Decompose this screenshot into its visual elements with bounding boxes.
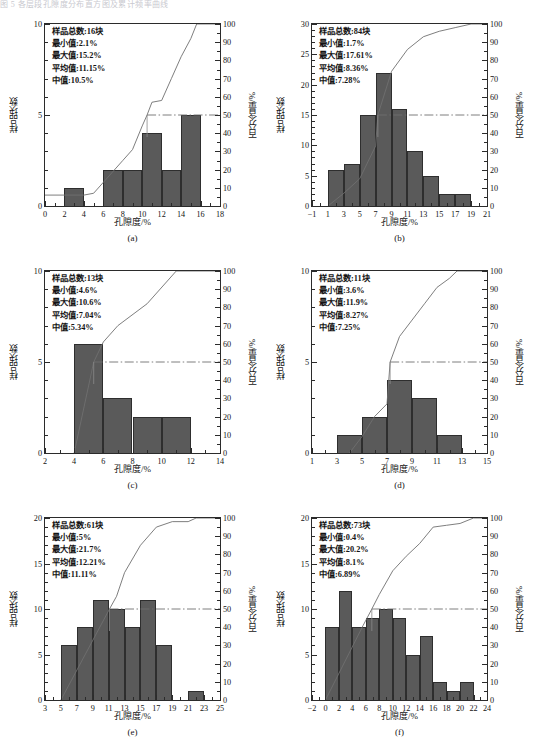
y-minor-tick bbox=[45, 206, 48, 207]
x-minor-tick bbox=[386, 697, 387, 700]
y-minor-tick bbox=[312, 36, 315, 37]
right-minor-tick bbox=[217, 280, 220, 281]
x-tick bbox=[439, 201, 440, 206]
y-minor-tick bbox=[312, 151, 315, 152]
x-minor-tick bbox=[450, 450, 451, 453]
right-minor-tick bbox=[217, 24, 220, 25]
x-minor-tick bbox=[350, 450, 351, 453]
chart-panel-a: 0246810121416180510010203040506070809010… bbox=[0, 9, 267, 256]
x-tick bbox=[162, 201, 163, 206]
right-minor-tick bbox=[217, 554, 220, 555]
x-tick bbox=[328, 201, 329, 206]
right-minor-tick bbox=[217, 435, 220, 436]
right-minor-tick bbox=[484, 206, 487, 207]
y-minor-tick bbox=[45, 582, 48, 583]
y-tick-label: 10 bbox=[301, 141, 309, 150]
stats-annotation: 样品总数:84块最小值:1.7%最大值:17.61%平均值:8.36%中值:7.… bbox=[319, 26, 373, 87]
y-tick-label: 0 bbox=[305, 449, 309, 458]
right-axis-title: 百分含量/% bbox=[245, 270, 257, 454]
right-tick-label: 0 bbox=[223, 449, 227, 458]
x-tick bbox=[387, 448, 388, 453]
x-tick bbox=[325, 695, 326, 700]
x-tick bbox=[61, 695, 62, 700]
right-minor-tick bbox=[217, 97, 220, 98]
y-minor-tick bbox=[312, 115, 315, 116]
y-minor-tick bbox=[312, 42, 315, 43]
y-axis-title-text: 样品块数 bbox=[6, 344, 19, 380]
right-tick-label: 40 bbox=[490, 623, 498, 632]
right-minor-tick bbox=[484, 88, 487, 89]
y-tick-label: 10 bbox=[301, 605, 309, 614]
right-minor-tick bbox=[484, 453, 487, 454]
chart-panel-e: 3579111315171921232505101520010203040506… bbox=[0, 503, 267, 750]
right-minor-tick bbox=[217, 206, 220, 207]
right-axis-title: 百分含量/% bbox=[245, 517, 257, 701]
y-minor-tick bbox=[312, 73, 315, 74]
x-minor-tick bbox=[53, 697, 54, 700]
y-minor-tick bbox=[312, 60, 315, 61]
right-minor-tick bbox=[484, 700, 487, 701]
y-minor-tick bbox=[312, 103, 315, 104]
y-axis-title: 样品块数 bbox=[273, 517, 285, 701]
x-axis-title: 孔隙度/% bbox=[311, 462, 488, 475]
stats-line: 最大值:17.61% bbox=[319, 50, 373, 62]
right-tick-label: 0 bbox=[223, 696, 227, 705]
y-minor-tick bbox=[45, 170, 48, 171]
right-minor-tick bbox=[484, 115, 487, 116]
y-minor-tick bbox=[312, 307, 315, 308]
y-minor-tick bbox=[45, 417, 48, 418]
y-minor-tick bbox=[45, 682, 48, 683]
x-minor-tick bbox=[117, 697, 118, 700]
right-tick-label: 20 bbox=[223, 412, 231, 421]
right-tick-label: 50 bbox=[223, 605, 231, 614]
right-tick-label: 90 bbox=[490, 38, 498, 47]
x-tick bbox=[74, 448, 75, 453]
right-tick-label: 100 bbox=[223, 267, 235, 276]
x-tick bbox=[360, 201, 361, 206]
y-axis-title-text: 样品块数 bbox=[273, 97, 286, 133]
right-axis-title-text: 百分含量/% bbox=[512, 339, 525, 385]
x-axis-title: 孔隙度/% bbox=[44, 215, 221, 228]
right-axis-title-text: 百分含量/% bbox=[245, 92, 258, 138]
x-tick bbox=[142, 201, 143, 206]
right-minor-tick bbox=[217, 124, 220, 125]
x-tick bbox=[344, 201, 345, 206]
y-minor-tick bbox=[312, 536, 315, 537]
right-tick-label: 70 bbox=[490, 321, 498, 330]
y-minor-tick bbox=[45, 115, 48, 116]
y-tick-label: 15 bbox=[301, 111, 309, 120]
y-minor-tick bbox=[312, 564, 315, 565]
right-minor-tick bbox=[484, 435, 487, 436]
right-minor-tick bbox=[217, 298, 220, 299]
stats-line: 样品总数:16块 bbox=[52, 26, 105, 38]
y-minor-tick bbox=[312, 600, 315, 601]
y-axis-title: 样品块数 bbox=[6, 517, 18, 701]
figure-sheet: 图 5 各层段孔隙度分布直方图及累计频率曲线 02468101214161805… bbox=[0, 0, 534, 751]
x-minor-tick bbox=[196, 697, 197, 700]
panel-caption: (f) bbox=[311, 727, 488, 737]
x-tick bbox=[471, 201, 472, 206]
right-minor-tick bbox=[217, 536, 220, 537]
right-minor-tick bbox=[217, 582, 220, 583]
right-tick-label: 60 bbox=[223, 339, 231, 348]
y-minor-tick bbox=[312, 176, 315, 177]
right-axis-title-text: 百分含量/% bbox=[245, 586, 258, 632]
right-tick-label: 60 bbox=[223, 586, 231, 595]
x-minor-tick bbox=[346, 697, 347, 700]
right-tick-label: 60 bbox=[223, 92, 231, 101]
x-tick bbox=[220, 448, 221, 453]
x-tick bbox=[412, 448, 413, 453]
right-minor-tick bbox=[484, 564, 487, 565]
right-tick-label: 90 bbox=[490, 532, 498, 541]
y-tick-label: 0 bbox=[38, 449, 42, 458]
stats-line: 最小值:3.6% bbox=[319, 285, 370, 297]
right-minor-tick bbox=[484, 142, 487, 143]
y-axis-title-text: 样品块数 bbox=[6, 591, 19, 627]
right-minor-tick bbox=[484, 179, 487, 180]
y-minor-tick bbox=[312, 700, 315, 701]
x-minor-tick bbox=[375, 450, 376, 453]
x-minor-tick bbox=[133, 203, 134, 206]
right-minor-tick bbox=[217, 527, 220, 528]
y-tick-label: 10 bbox=[301, 267, 309, 276]
y-tick-label: 0 bbox=[305, 202, 309, 211]
